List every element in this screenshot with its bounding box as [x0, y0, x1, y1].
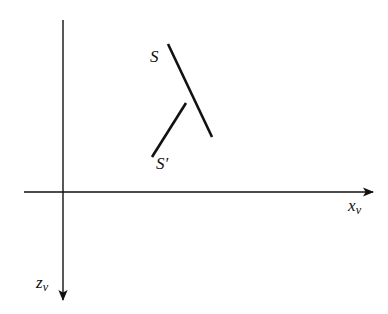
x-axis-label-base: x	[348, 196, 356, 215]
diagram-svg	[0, 0, 388, 314]
figure-canvas: S S′ xv zv	[0, 0, 388, 314]
segment-s-label: S	[150, 48, 159, 65]
z-axis-label: zv	[36, 274, 48, 294]
segment-s-prime-label: S′	[156, 155, 168, 172]
x-axis-label: xv	[348, 197, 361, 217]
z-axis-label-base: z	[36, 273, 43, 292]
x-axis-label-subscript: v	[356, 203, 362, 217]
z-axis-label-subscript: v	[43, 280, 49, 294]
segment-s-prime-line	[152, 103, 186, 157]
